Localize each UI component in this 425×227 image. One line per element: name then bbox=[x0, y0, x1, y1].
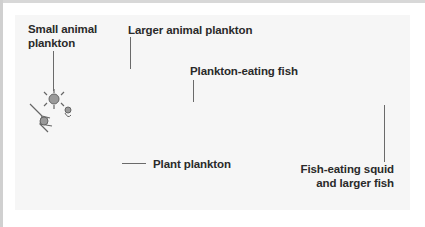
label-plant-plankton: Plant plankton bbox=[153, 157, 231, 171]
label-fish-eating-squid-line2: and larger fish bbox=[300, 176, 394, 190]
label-small-animal-plankton: Small animal plankton bbox=[28, 22, 97, 50]
label-small-animal-plankton-line2: plankton bbox=[28, 36, 97, 50]
small-animal-plankton-icon bbox=[30, 89, 71, 132]
leader-line-small-animal bbox=[53, 51, 54, 91]
leader-line-plant-plankton bbox=[122, 163, 146, 164]
leader-line-squid bbox=[384, 105, 385, 162]
label-larger-animal-plankton: Larger animal plankton bbox=[128, 23, 252, 37]
leader-line-plankton-fish bbox=[193, 80, 194, 102]
label-fish-eating-squid-line1: Fish-eating squid bbox=[300, 162, 394, 176]
leader-line-larger-animal bbox=[130, 37, 131, 69]
label-small-animal-plankton-line1: Small animal bbox=[28, 22, 97, 36]
label-plankton-eating-fish: Plankton-eating fish bbox=[190, 64, 298, 78]
label-fish-eating-squid: Fish-eating squid and larger fish bbox=[300, 162, 394, 190]
